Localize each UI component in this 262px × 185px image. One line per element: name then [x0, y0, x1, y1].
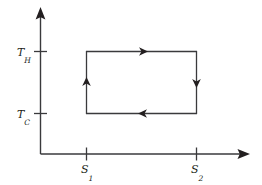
- axes-group: [36, 7, 250, 159]
- ts-diagram-figure: TH TC S1 S2: [0, 0, 262, 185]
- label-t-cold: TC: [17, 108, 30, 127]
- cycle-direction-arrows: [82, 47, 201, 118]
- label-s-two-sub: 2: [198, 173, 204, 182]
- label-s-one: S1: [81, 163, 93, 182]
- label-s-one-sub: 1: [89, 173, 94, 182]
- label-t-cold-sub: C: [24, 118, 30, 127]
- label-s-two: S2: [191, 163, 204, 182]
- label-t-hot: TH: [17, 46, 31, 65]
- tick-marks-group: [34, 52, 197, 161]
- carnot-cycle-path: [86, 51, 197, 114]
- label-t-hot-sub: H: [23, 56, 31, 65]
